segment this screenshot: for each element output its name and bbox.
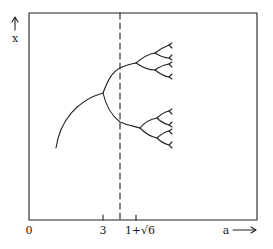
bifurcation-curve [56, 43, 172, 148]
x-axis-arrow-icon [233, 227, 256, 233]
tick-label-1-plus-sqrt6: 1+√6 [125, 224, 155, 237]
y-axis-label: x [12, 32, 19, 45]
bifurcation-diagram: x 0 3 1+√6 a [0, 0, 273, 249]
plot-frame [29, 13, 257, 220]
tick-label-0: 0 [26, 224, 33, 237]
y-axis-arrow-icon [12, 17, 18, 30]
x-axis-label: a [223, 224, 230, 237]
tick-label-3: 3 [100, 224, 107, 237]
